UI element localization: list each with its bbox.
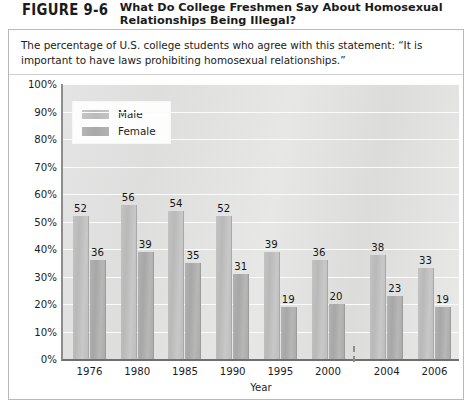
gridline xyxy=(63,167,459,168)
bar-value-label: 36 xyxy=(91,247,104,258)
y-axis-tick-label: 0% xyxy=(41,354,57,365)
x-axis-tick-label: 1995 xyxy=(267,366,293,377)
gridline xyxy=(63,84,459,85)
y-axis-tick-label: 60% xyxy=(34,189,57,200)
bar-value-label: 56 xyxy=(122,192,135,203)
y-axis-tick-label: 70% xyxy=(34,161,57,172)
bar-female-2006: 19 xyxy=(435,307,451,359)
bar-value-label: 35 xyxy=(186,250,199,261)
bar-male-1990: 52 xyxy=(216,216,232,359)
y-axis-tick-label: 40% xyxy=(34,244,57,255)
y-axis-tick-label: 50% xyxy=(34,216,57,227)
bar-value-label: 39 xyxy=(265,239,278,250)
bar-female-1976: 36 xyxy=(90,260,106,359)
bar-male-2006: 33 xyxy=(418,268,434,359)
bar-male-1976: 52 xyxy=(73,216,89,359)
bar-male-1980: 56 xyxy=(121,205,137,359)
bar-value-label: 33 xyxy=(419,255,432,266)
axis-break-marker xyxy=(353,346,355,362)
legend-item-female: Female xyxy=(82,125,156,137)
bar-male-1985: 54 xyxy=(168,211,184,360)
y-axis-tick-label: 30% xyxy=(34,271,57,282)
bar-male-2004: 38 xyxy=(370,255,386,360)
subtitle-box: The percentage of U.S. college students … xyxy=(9,30,463,75)
bar-value-label: 23 xyxy=(388,283,401,294)
bar-value-label: 38 xyxy=(371,242,384,253)
x-axis-tick-label: 2004 xyxy=(374,366,400,377)
bar-male-2000: 36 xyxy=(312,260,328,359)
x-axis-tick-label: 2006 xyxy=(422,366,448,377)
x-axis-tick-label: 1980 xyxy=(124,366,150,377)
bar-value-label: 19 xyxy=(436,294,449,305)
x-axis-tick-label: 1985 xyxy=(172,366,198,377)
bar-value-label: 36 xyxy=(313,247,326,258)
bar-value-label: 54 xyxy=(169,198,182,209)
bar-value-label: 19 xyxy=(282,294,295,305)
bar-value-label: 52 xyxy=(74,203,87,214)
chart-area: MaleFemale Year 0%10%20%30%40%50%60%70%8… xyxy=(9,75,465,401)
bar-female-2000: 20 xyxy=(329,304,345,359)
figure-header: FIGURE 9-6 What Do College Freshmen Say … xyxy=(22,1,462,27)
figure-subtitle: The percentage of U.S. college students … xyxy=(21,38,451,67)
bar-value-label: 39 xyxy=(139,239,152,250)
bar-value-label: 31 xyxy=(234,261,247,272)
legend-item-male: Male xyxy=(82,108,156,120)
y-axis-tick-label: 10% xyxy=(34,326,57,337)
gridline xyxy=(63,112,459,113)
y-axis-tick-label: 90% xyxy=(34,106,57,117)
x-axis-tick-label: 1990 xyxy=(220,366,246,377)
x-axis-tick-label: 1976 xyxy=(77,366,103,377)
bar-value-label: 52 xyxy=(217,203,230,214)
legend-label-female: Female xyxy=(118,125,156,137)
bar-female-1990: 31 xyxy=(233,274,249,359)
legend-swatch-female xyxy=(82,127,109,136)
figure-title: What Do College Freshmen Say About Homos… xyxy=(120,1,462,27)
y-axis-tick-label: 100% xyxy=(28,79,57,90)
figure-number: FIGURE 9-6 xyxy=(22,1,108,18)
bar-female-1995: 19 xyxy=(281,307,297,359)
gridline xyxy=(63,139,459,140)
legend-label-male: Male xyxy=(118,108,143,120)
bar-value-label: 20 xyxy=(330,291,343,302)
x-axis-tick-label: 2000 xyxy=(315,366,341,377)
figure-panel: The percentage of U.S. college students … xyxy=(8,29,464,400)
plot-area: MaleFemale Year 0%10%20%30%40%50%60%70%8… xyxy=(61,84,459,361)
chart-legend: MaleFemale xyxy=(73,102,170,143)
y-axis-tick-label: 80% xyxy=(34,134,57,145)
bar-female-1985: 35 xyxy=(185,263,201,359)
y-axis-tick-label: 20% xyxy=(34,299,57,310)
bar-male-1995: 39 xyxy=(264,252,280,359)
x-axis-title: Year xyxy=(250,382,272,393)
bar-female-2004: 23 xyxy=(387,296,403,359)
bar-female-1980: 39 xyxy=(138,252,154,359)
